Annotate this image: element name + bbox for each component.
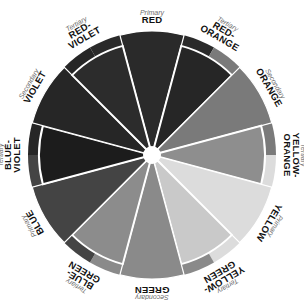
- segment-name-label: ORANGE: [282, 134, 293, 177]
- label-blue-violet: TertiaryBLUE-VIOLET: [0, 137, 22, 173]
- segment-name-label: RED: [142, 14, 163, 25]
- label-red: PrimaryRED: [140, 9, 165, 25]
- label-green: SecondaryGREEN: [135, 285, 170, 301]
- segment-name-label: VIOLET: [11, 137, 22, 173]
- color-wheel: PrimaryREDTertiaryRED-ORANGESecondaryORA…: [0, 0, 304, 303]
- segment-name-label: GREEN: [135, 285, 170, 296]
- center-hub: [143, 146, 161, 164]
- label-yellow-orange: TertiaryYELLOW-ORANGE: [282, 132, 304, 177]
